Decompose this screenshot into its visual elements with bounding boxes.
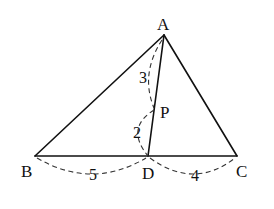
measure-ap: 3 <box>139 69 147 86</box>
label-p: P <box>160 103 169 122</box>
measure-pd: 2 <box>133 124 141 141</box>
segment-ab <box>35 35 164 156</box>
label-c: C <box>236 162 247 181</box>
label-b: B <box>21 162 32 181</box>
measure-dc: 4 <box>191 167 199 184</box>
label-a: A <box>157 15 170 34</box>
triangle-diagram: A B D C P 3 2 5 4 <box>0 0 274 209</box>
measure-bd: 5 <box>89 166 97 183</box>
segment-ad <box>148 35 164 156</box>
segment-ac <box>164 35 237 156</box>
label-d: D <box>142 164 154 183</box>
